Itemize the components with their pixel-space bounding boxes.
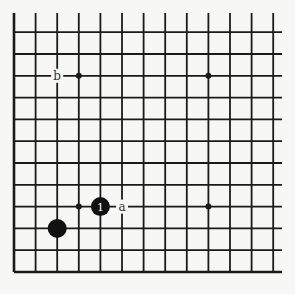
black-stone: 1 [91,197,110,216]
star-point-icon [205,204,211,210]
star-point-icon [76,73,82,79]
star-point-icon [76,204,82,210]
star-point-icon [205,73,211,79]
svg-text:b: b [53,69,61,83]
svg-text:a: a [118,200,125,214]
black-stone [48,219,67,238]
label-b: b [51,69,63,83]
label-a: a [116,200,128,214]
move-number: 1 [97,201,104,214]
go-board: 1 ab [0,0,295,294]
